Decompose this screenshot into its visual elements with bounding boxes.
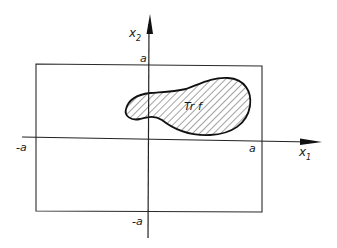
tick-label-y-neg: -a bbox=[132, 215, 143, 228]
diagram-canvas: x2 x1 a -a a -a Tr f bbox=[0, 0, 337, 248]
x2-axis-label: x2 bbox=[128, 26, 141, 43]
tick-label-x-pos: a bbox=[249, 142, 256, 155]
x1-axis-label: x1 bbox=[298, 145, 311, 162]
x1-axis bbox=[22, 137, 312, 142]
region-label: Tr f bbox=[184, 100, 204, 113]
x2-axis bbox=[148, 24, 149, 238]
tick-label-x-neg: -a bbox=[16, 141, 27, 154]
tick-label-y-pos: a bbox=[140, 52, 147, 65]
x2-arrow-icon bbox=[147, 14, 154, 34]
